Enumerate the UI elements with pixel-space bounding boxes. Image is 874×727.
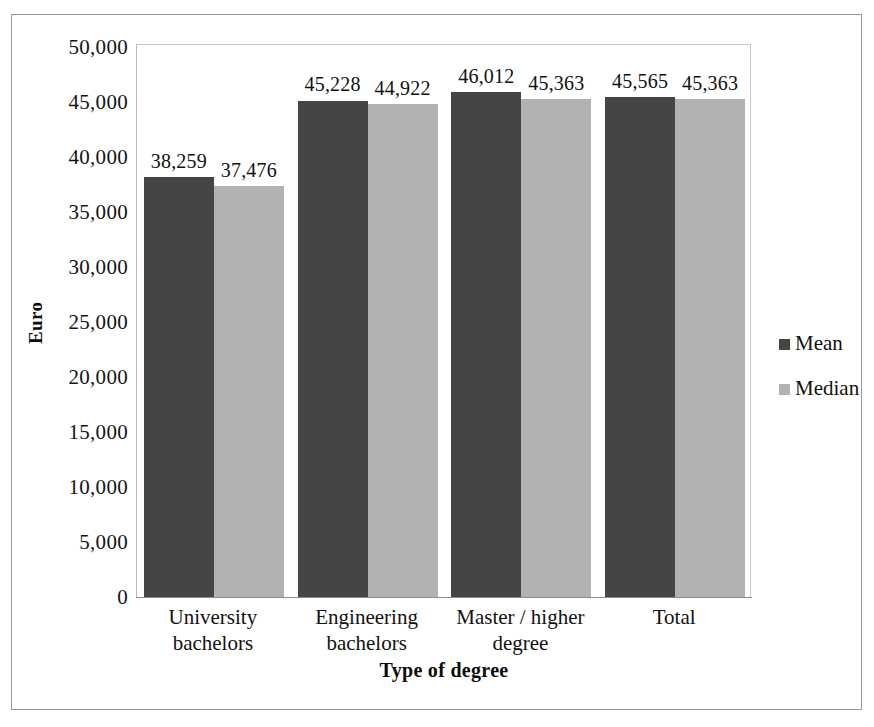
bar-mean-1[interactable]	[298, 101, 368, 599]
bar-median-1[interactable]	[368, 104, 438, 598]
x-axis-tick-label: Engineeringbachelors	[290, 604, 444, 656]
y-axis-tick-label: 20,000	[8, 367, 128, 388]
x-axis-tick-label-line: Master / higher	[444, 604, 598, 630]
legend-item-median[interactable]: Median	[779, 375, 865, 420]
bar-median-0[interactable]	[214, 186, 284, 598]
y-axis-tick-label: 50,000	[8, 37, 128, 58]
x-axis-tick-label-line: bachelors	[290, 630, 444, 656]
plot-area: 38,25937,47645,22844,92246,01245,36345,5…	[136, 44, 751, 598]
x-axis-tick-label: Universitybachelors	[136, 604, 290, 656]
x-axis-tick-label-line: Engineering	[290, 604, 444, 630]
y-axis-tick-labels: 50,00045,00040,00035,00030,00025,00020,0…	[0, 0, 128, 727]
chart-legend: MeanMedian	[779, 330, 865, 420]
bar-value-label: 45,363	[511, 73, 601, 93]
x-axis-tick-label: Total	[597, 604, 751, 630]
x-axis-tick-label-line: Total	[597, 604, 751, 630]
bar-value-label: 37,476	[204, 160, 294, 180]
bar-value-label: 45,363	[665, 73, 755, 93]
bar-median-2[interactable]	[521, 99, 591, 598]
bar-median-3[interactable]	[675, 99, 745, 598]
plot-inner: 38,25937,47645,22844,92246,01245,36345,5…	[137, 45, 750, 597]
bar-group: 45,22844,922	[291, 45, 445, 597]
bar-group: 46,01245,363	[445, 45, 599, 597]
bar-group: 38,25937,476	[137, 45, 291, 597]
x-axis-tick-labels: UniversitybachelorsEngineeringbachelorsM…	[136, 604, 752, 664]
bar-value-label: 44,922	[358, 78, 448, 98]
x-axis-tick-label: Master / higherdegree	[444, 604, 598, 656]
x-axis-line	[136, 597, 752, 598]
bar-group: 45,56545,363	[598, 45, 752, 597]
legend-label: Mean	[795, 330, 843, 356]
y-axis-tick-label: 35,000	[8, 202, 128, 223]
x-axis-tick-label-line: bachelors	[136, 630, 290, 656]
x-axis-tick-label-line: University	[136, 604, 290, 630]
y-axis-tick-label: 10,000	[8, 477, 128, 498]
legend-swatch-icon	[779, 384, 790, 395]
legend-item-mean[interactable]: Mean	[779, 330, 865, 375]
legend-swatch-icon	[779, 339, 790, 350]
x-axis-tick-label-line: degree	[444, 630, 598, 656]
y-axis-tick-label: 5,000	[8, 532, 128, 553]
x-axis-title: Type of degree	[136, 659, 752, 682]
y-axis-tick-label: 15,000	[8, 422, 128, 443]
bar-mean-2[interactable]	[451, 92, 521, 598]
y-axis-tick-label: 30,000	[8, 257, 128, 278]
bar-mean-0[interactable]	[144, 177, 214, 598]
y-axis-tick-label: 25,000	[8, 312, 128, 333]
legend-label: Median	[795, 375, 859, 401]
y-axis-tick-label: 0	[8, 587, 128, 608]
y-axis-tick-label: 45,000	[8, 92, 128, 113]
bar-mean-3[interactable]	[605, 97, 675, 598]
y-axis-tick-label: 40,000	[8, 147, 128, 168]
bar-chart: Euro 50,00045,00040,00035,00030,00025,00…	[0, 0, 874, 727]
